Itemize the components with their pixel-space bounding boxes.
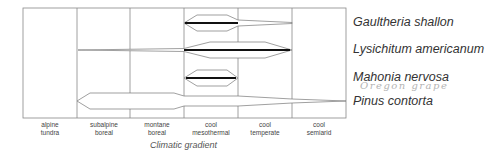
zone-label-montane-boreal: montaneboreal [130,121,184,137]
species-label-pinus: Pinus contorta [353,94,433,108]
zone-line1: subalpine [90,121,118,128]
zone-label-subalpine-boreal: subalpineboreal [77,121,131,137]
zone-line1: cool [259,121,271,128]
zone-label-alpine-tundra: alpinetundra [23,121,77,137]
zone-line2: mesothermal [192,129,230,136]
zone-label-cool-temperate: cooltemperate [238,121,292,137]
handwritten-annotation: Oregon grape [360,80,448,91]
zone-line2: boreal [95,129,113,136]
range-bar-pinus [77,93,346,109]
zone-line2: semiarid [307,129,332,136]
zone-line2: temperate [250,129,279,136]
zone-line2: tundra [41,129,59,136]
range-bar-lysichitum [78,42,292,58]
zone-label-cool-mesothermal: coolmesothermal [184,121,238,137]
zone-line1: alpine [41,121,58,128]
species-label-lysichitum: Lysichitum americanum [353,42,484,56]
range-bar-mahonia [184,70,238,86]
zone-line2: boreal [148,129,166,136]
zone-label-cool-semiarid: coolsemiarid [292,121,346,137]
zone-line1: cool [313,121,325,128]
axis-title: Climatic gradient [150,140,217,150]
zone-line1: montane [144,121,169,128]
species-label-gaultheria: Gaultheria shallon [353,15,454,29]
zone-line1: cool [205,121,217,128]
